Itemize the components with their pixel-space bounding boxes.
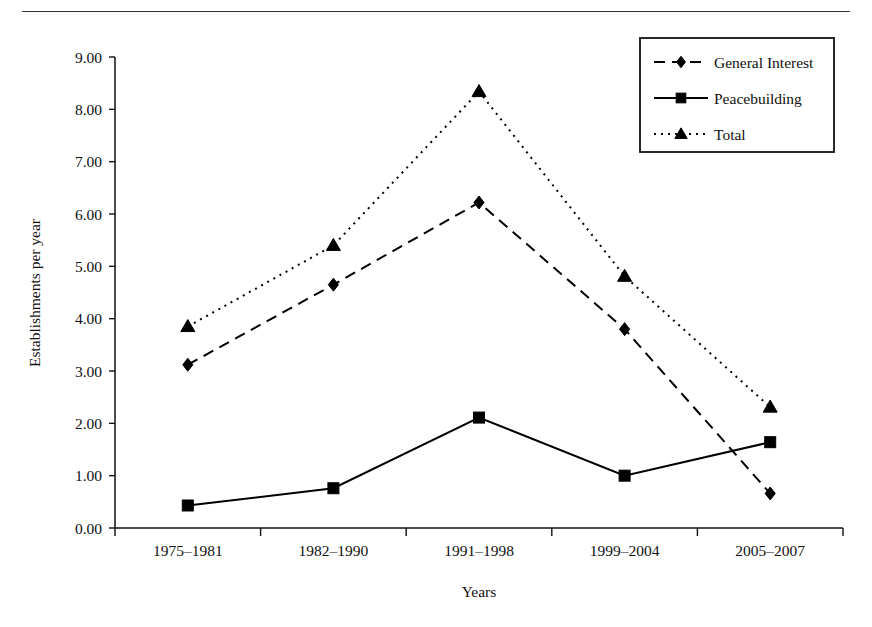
- series-peacebuilding: [182, 412, 775, 511]
- legend-label-0: General Interest: [714, 54, 814, 71]
- y-tick-label: 0.00: [75, 520, 102, 537]
- series-line-1: [188, 418, 770, 506]
- marker-square: [765, 437, 776, 448]
- x-tick-label: 1999–2004: [590, 542, 660, 559]
- x-tick-label: 2005–2007: [735, 542, 805, 559]
- series-general-interest: [183, 196, 776, 500]
- y-tick-label: 8.00: [75, 101, 102, 118]
- header-rule: [22, 11, 850, 12]
- marker-diamond: [183, 358, 193, 371]
- chart-legend[interactable]: General InterestPeacebuildingTotal: [640, 38, 834, 152]
- y-tick-label: 6.00: [75, 206, 102, 223]
- y-tick-label: 5.00: [75, 258, 102, 275]
- figure-container: 0.001.002.003.004.005.006.007.008.009.00…: [0, 0, 872, 627]
- x-axis-title: Years: [462, 583, 497, 600]
- marker-triangle: [181, 320, 195, 332]
- marker-diamond: [474, 196, 484, 209]
- y-tick-label: 2.00: [75, 415, 102, 432]
- x-tick-label: 1991–1998: [444, 542, 514, 559]
- legend-label-1: Peacebuilding: [714, 90, 802, 107]
- line-chart: 0.001.002.003.004.005.006.007.008.009.00…: [0, 0, 872, 627]
- y-axis-title: Establishments per year: [26, 218, 43, 367]
- y-tick-label: 3.00: [75, 363, 102, 380]
- series-line-0: [188, 202, 770, 493]
- marker-triangle: [472, 85, 486, 97]
- y-tick-label: 9.00: [75, 49, 102, 66]
- marker-square: [676, 93, 686, 103]
- marker-triangle: [763, 400, 777, 412]
- y-tick-label: 1.00: [75, 467, 102, 484]
- y-axis: 0.001.002.003.004.005.006.007.008.009.00: [75, 49, 115, 537]
- legend-label-2: Total: [714, 126, 746, 143]
- x-tick-label: 1982–1990: [299, 542, 369, 559]
- marker-square: [474, 412, 485, 423]
- y-tick-label: 4.00: [75, 310, 102, 327]
- marker-diamond: [328, 278, 338, 291]
- x-tick-label: 1975–1981: [153, 542, 223, 559]
- marker-square: [328, 483, 339, 494]
- x-axis: 1975–19811982–19901991–19981999–20042005…: [115, 528, 843, 559]
- y-tick-label: 7.00: [75, 153, 102, 170]
- marker-triangle: [618, 269, 632, 281]
- marker-square: [182, 500, 193, 511]
- marker-triangle: [326, 238, 340, 250]
- marker-square: [619, 470, 630, 481]
